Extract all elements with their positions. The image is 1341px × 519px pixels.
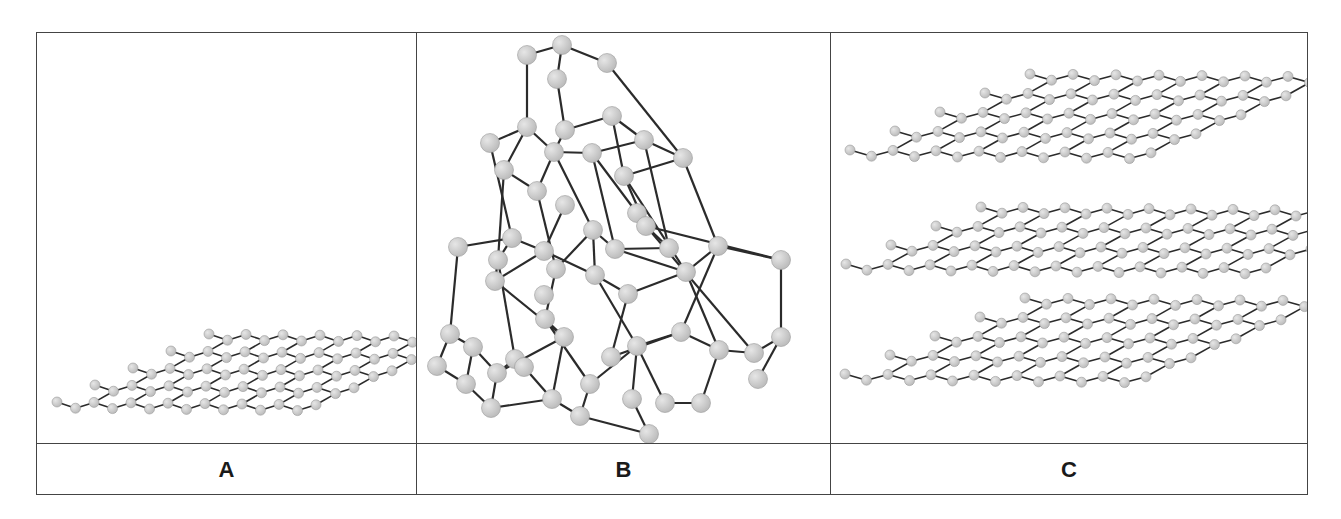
carbon-atom	[586, 266, 605, 285]
carbon-atom	[1060, 147, 1070, 157]
carbon-atom	[1180, 243, 1190, 253]
carbon-atom	[277, 347, 287, 357]
carbon-atom	[1156, 268, 1166, 278]
carbon-atom	[980, 88, 990, 98]
carbon-atom	[1243, 249, 1253, 259]
carbon-atom	[147, 369, 157, 379]
carbon-atom	[933, 126, 943, 136]
carbon-atom	[584, 221, 603, 240]
carbon-atom	[407, 355, 417, 365]
carbon-atom	[910, 152, 920, 162]
carbon-atom	[1014, 351, 1024, 361]
carbon-atom	[1103, 147, 1113, 157]
carbon-atom	[387, 366, 397, 376]
carbon-atom	[1150, 109, 1160, 119]
carbon-atom	[1057, 222, 1067, 232]
carbon-atom	[1169, 320, 1179, 330]
carbon-atom	[295, 371, 305, 381]
carbon-atom	[623, 390, 642, 409]
carbon-atom	[1141, 372, 1151, 382]
carbon-atom	[1172, 115, 1182, 125]
carbon-atom	[182, 404, 192, 414]
carbon-atom	[1306, 244, 1307, 254]
carbon-atom	[931, 221, 941, 231]
carbon-atom	[619, 285, 638, 304]
carbon-atom	[1012, 241, 1022, 251]
carbon-atom	[1083, 319, 1093, 329]
carbon-atom	[183, 387, 193, 397]
carbon-atom	[351, 348, 361, 358]
carbon-atom	[1235, 295, 1245, 305]
carbon-atom	[912, 132, 922, 142]
carbon-atom	[1195, 90, 1205, 100]
carbon-atom	[1034, 377, 1044, 387]
carbon-atom	[89, 397, 99, 407]
carbon-atom	[1125, 154, 1135, 164]
carbon-atom	[969, 370, 979, 380]
carbon-atom	[1000, 114, 1010, 124]
carbon-atom	[1225, 224, 1235, 234]
carbon-atom	[1111, 70, 1121, 80]
carbon-atom	[1122, 358, 1132, 368]
carbon-atom	[1055, 371, 1065, 381]
carbon-atom	[297, 336, 307, 346]
carbon-atom	[482, 399, 501, 418]
carbon-atom	[1084, 134, 1094, 144]
figure-frame: A B C	[36, 32, 1308, 495]
panel-label-c: C	[831, 445, 1307, 494]
carbon-atom	[1002, 94, 1012, 104]
carbon-atom	[1186, 204, 1196, 214]
carbon-atom	[1264, 244, 1274, 254]
carbon-atom	[953, 152, 963, 162]
carbon-atom	[640, 425, 659, 444]
carbon-atom	[991, 247, 1001, 257]
panel-label-b: B	[417, 445, 830, 494]
carbon-atom	[240, 347, 250, 357]
carbon-atom	[995, 338, 1005, 348]
carbon-atom	[1016, 332, 1026, 342]
carbon-atom	[862, 375, 872, 385]
carbon-atom	[886, 240, 896, 250]
carbon-atom	[1288, 230, 1298, 240]
carbon-atom	[583, 144, 602, 163]
carbon-atom	[1075, 248, 1085, 258]
carbon-atom	[1276, 315, 1286, 325]
carbon-atom	[993, 357, 1003, 367]
carbon-atom	[1041, 133, 1051, 143]
carbon-atom	[1042, 299, 1052, 309]
carbon-atom	[971, 351, 981, 361]
carbon-atom	[628, 337, 647, 356]
carbon-atom	[1190, 314, 1200, 324]
bond	[580, 416, 649, 434]
carbon-atom	[1093, 261, 1103, 271]
carbon-atom	[1201, 249, 1211, 259]
carbon-atom	[200, 399, 210, 409]
carbon-atom	[1260, 97, 1270, 107]
carbon-atom	[1257, 301, 1267, 311]
carbon-atom	[1060, 203, 1070, 213]
carbon-atom	[974, 146, 984, 156]
carbon-atom	[772, 328, 791, 347]
carbon-atom	[1165, 359, 1175, 369]
carbon-atom	[1210, 340, 1220, 350]
carbon-atom	[1106, 294, 1116, 304]
carbon-atom	[221, 370, 231, 380]
carbon-atom	[1079, 358, 1089, 368]
carbon-atom	[991, 376, 1001, 386]
carbon-atom	[1283, 71, 1293, 81]
carbon-atom	[1154, 70, 1164, 80]
carbon-atom	[1167, 339, 1177, 349]
carbon-atom	[997, 318, 1007, 328]
carbon-atom	[904, 266, 914, 276]
carbon-atom	[1023, 88, 1033, 98]
carbon-atom	[1018, 202, 1028, 212]
carbon-atom	[223, 335, 233, 345]
carbon-atom	[1072, 267, 1082, 277]
carbon-atom	[692, 394, 711, 413]
carbon-atom	[1064, 108, 1074, 118]
carbon-atom	[518, 46, 537, 65]
carbon-atom	[1105, 128, 1115, 138]
carbon-atom	[862, 265, 872, 275]
carbon-atom	[890, 126, 900, 136]
carbon-atom	[203, 346, 213, 356]
